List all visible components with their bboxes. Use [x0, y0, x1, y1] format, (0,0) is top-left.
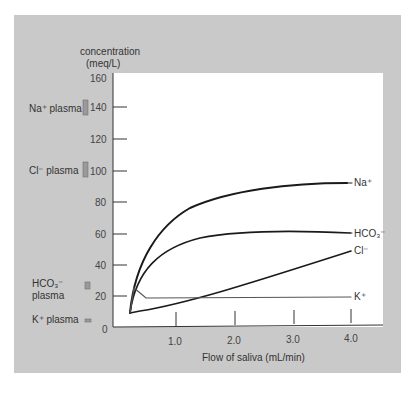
y-axis-label-line2: (meq/L) — [86, 58, 120, 69]
hco3-plasma-label-line2: plasma — [32, 290, 65, 301]
x-tick-label: 1.0 — [168, 336, 182, 347]
x-axis-label: Flow of saliva (mL/min) — [202, 352, 305, 363]
x-tick-label: 2.0 — [227, 335, 241, 346]
hco3-plasma-marker — [85, 282, 90, 289]
cl-series-label: Cl⁻ — [354, 245, 368, 256]
y-tick-label: 160 — [90, 73, 107, 84]
na-series-label: Na⁺ — [354, 177, 372, 188]
plasma-markers: Na⁺ plasma Cl⁻ plasma HCO₃⁻ plasma K⁺ pl… — [29, 100, 91, 325]
y-tick-label: 100 — [90, 166, 107, 177]
chart-svg: concentration (meq/L) 160 140 120 100 80… — [0, 0, 413, 395]
y-tick-label: 60 — [95, 229, 107, 240]
y-tick-label: 40 — [95, 260, 107, 271]
k-plasma-label: K⁺ plasma — [32, 314, 79, 325]
y-tick-label: 120 — [90, 134, 107, 145]
y-axis-label-line1: concentration — [80, 46, 140, 57]
x-tick-label: 4.0 — [344, 333, 358, 344]
y-tick-label: 0 — [102, 324, 108, 335]
k-plasma-marker — [85, 319, 91, 322]
y-tick-label: 140 — [90, 102, 107, 113]
y-tick-label: 80 — [95, 197, 107, 208]
cl-plasma-label: Cl⁻ plasma — [29, 165, 79, 176]
cl-plasma-marker — [83, 162, 88, 177]
x-tick-label: 3.0 — [286, 334, 300, 345]
na-plasma-marker — [83, 100, 88, 115]
plot-area — [113, 73, 383, 327]
k-series-label: K⁺ — [354, 291, 366, 302]
hco3-plasma-label-line1: HCO₃⁻ — [32, 278, 63, 289]
y-tick-label: 20 — [95, 291, 107, 302]
hco3-series-label: HCO₃⁻ — [354, 228, 385, 239]
na-plasma-label: Na⁺ plasma — [29, 103, 82, 114]
